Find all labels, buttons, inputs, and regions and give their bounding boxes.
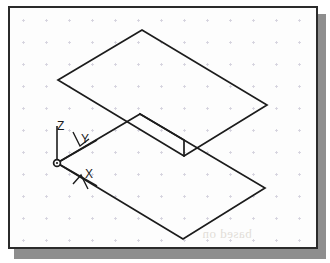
notch-step-edge <box>140 114 184 156</box>
upper-parallelogram <box>58 30 267 156</box>
z-axis-label: Z <box>57 120 64 132</box>
geometry-layer <box>10 8 316 247</box>
x-axis-label: X <box>85 168 93 180</box>
cad-canvas[interactable]: Z Y X based on <box>10 8 316 247</box>
origin-center-dot-icon <box>56 162 58 164</box>
y-axis-label: Y <box>81 133 89 145</box>
cad-drawing-frame: Z Y X based on <box>8 6 318 249</box>
y-axis-arm <box>57 140 97 163</box>
figure-root: Z Y X based on <box>0 0 330 263</box>
scan-bleed-text-artifact: based on <box>202 226 252 242</box>
